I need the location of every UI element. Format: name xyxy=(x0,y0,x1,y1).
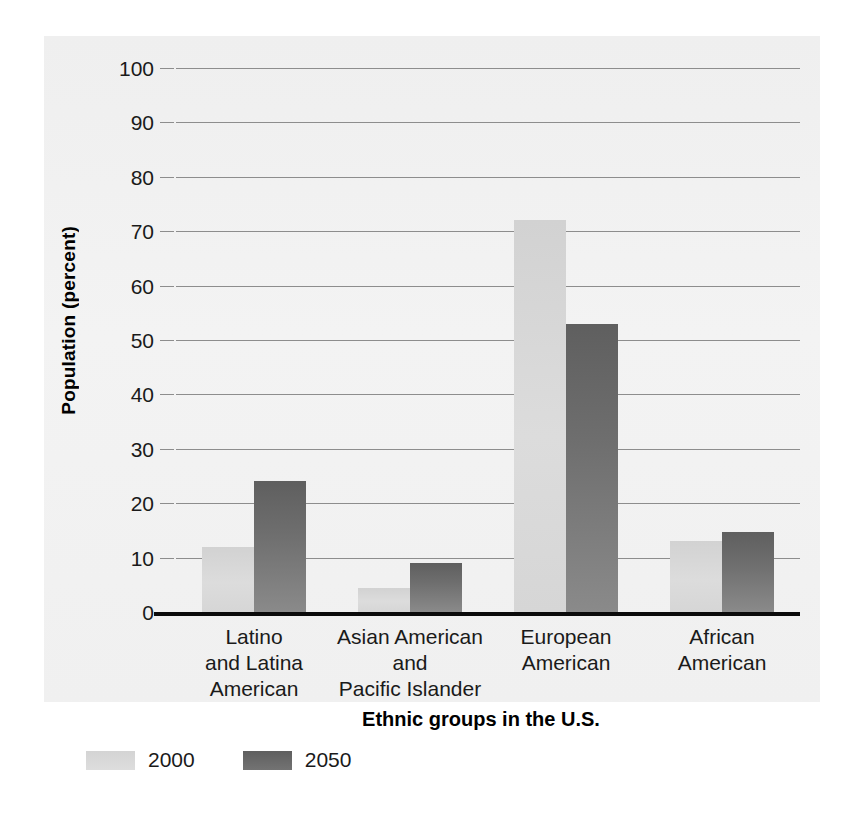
y-axis-tick-label-30: 30 xyxy=(131,438,154,459)
y-axis-tick-label-10: 10 xyxy=(131,547,154,568)
bar-1-3 xyxy=(722,532,774,612)
y-axis-tick-50 xyxy=(160,340,174,341)
y-axis-tick-label-50: 50 xyxy=(131,330,154,351)
gridline-60 xyxy=(176,286,800,287)
bar-0-3 xyxy=(670,541,722,612)
y-axis-tick-10 xyxy=(160,558,174,559)
plot-area: 0102030405060708090100 xyxy=(176,68,800,612)
gridline-50 xyxy=(176,340,800,341)
y-axis-tick-label-90: 90 xyxy=(131,112,154,133)
y-axis-tick-label-80: 80 xyxy=(131,166,154,187)
bar-0-2 xyxy=(514,220,566,612)
y-axis-title: Population (percent) xyxy=(58,226,86,415)
y-axis-tick-label-40: 40 xyxy=(131,384,154,405)
category-label-line: African xyxy=(629,624,815,650)
y-axis-tick-label-70: 70 xyxy=(131,221,154,242)
y-axis-tick-70 xyxy=(160,231,174,232)
y-axis-tick-60 xyxy=(160,286,174,287)
x-axis-category-labels: Latinoand LatinaAmericanAsian Americanan… xyxy=(176,624,800,710)
bar-1-2 xyxy=(566,324,618,612)
bar-1-1 xyxy=(410,563,462,612)
category-label-line: Pacific Islander xyxy=(317,676,503,702)
y-axis-tick-30 xyxy=(160,449,174,450)
gridline-30 xyxy=(176,449,800,450)
y-axis-tick-label-60: 60 xyxy=(131,275,154,296)
y-axis-tick-label-0: 0 xyxy=(142,602,154,623)
legend-item-2000[interactable]: 2000 xyxy=(86,748,195,772)
gridline-70 xyxy=(176,231,800,232)
y-axis-tick-90 xyxy=(160,122,174,123)
y-axis-tick-100 xyxy=(160,68,174,69)
x-axis-category-label-3: AfricanAmerican xyxy=(629,624,815,676)
category-label-line: American xyxy=(629,650,815,676)
gridline-40 xyxy=(176,394,800,395)
bar-0-1 xyxy=(358,588,410,612)
legend-label-2000: 2000 xyxy=(148,748,195,772)
gridline-90 xyxy=(176,122,800,123)
legend-swatch-2050 xyxy=(243,751,292,770)
x-axis-baseline xyxy=(154,612,800,616)
y-axis-tick-20 xyxy=(160,503,174,504)
gridline-100 xyxy=(176,68,800,69)
gridline-80 xyxy=(176,177,800,178)
y-axis-tick-40 xyxy=(160,394,174,395)
y-axis-tick-label-20: 20 xyxy=(131,493,154,514)
y-axis-tick-80 xyxy=(160,177,174,178)
legend-swatch-2000 xyxy=(86,751,135,770)
legend-label-2050: 2050 xyxy=(305,748,352,772)
legend-item-2050[interactable]: 2050 xyxy=(243,748,352,772)
bar-0-0 xyxy=(202,547,254,612)
bar-1-0 xyxy=(254,481,306,612)
x-axis-title: Ethnic groups in the U.S. xyxy=(0,708,852,731)
chart-legend: 20002050 xyxy=(86,748,351,772)
y-axis-tick-label-100: 100 xyxy=(119,58,154,79)
